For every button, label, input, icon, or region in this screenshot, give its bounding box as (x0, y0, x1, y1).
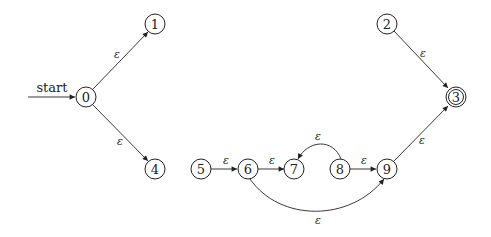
edge-6-9: ε (250, 179, 384, 227)
edge-9-3: ε (394, 106, 448, 161)
svg-text:0: 0 (82, 90, 90, 105)
nfa-diagram: start ε ε ε ε ε ε ε ε ε 0 1 (0, 0, 491, 237)
state-2: 2 (377, 14, 397, 34)
edge-label: ε (269, 154, 275, 167)
state-5: 5 (191, 159, 211, 179)
state-7: 7 (284, 159, 304, 179)
start-label: start (36, 80, 68, 95)
svg-text:2: 2 (383, 17, 391, 32)
state-1: 1 (145, 14, 165, 34)
edge-label: ε (223, 154, 229, 167)
edge-0-4: ε (93, 105, 148, 161)
state-6: 6 (238, 159, 258, 179)
state-8: 8 (330, 159, 350, 179)
edge-8-9: ε (350, 154, 376, 169)
edge-6-7: ε (258, 154, 284, 169)
svg-text:9: 9 (383, 162, 391, 177)
svg-text:1: 1 (151, 17, 159, 32)
edge-8-7: ε (298, 130, 341, 159)
svg-text:7: 7 (290, 162, 298, 177)
svg-text:6: 6 (244, 162, 252, 177)
edge-0-1: ε (93, 32, 148, 89)
svg-text:5: 5 (197, 162, 205, 177)
edge-2-3: ε (394, 31, 448, 88)
edge-label: ε (361, 154, 367, 167)
state-4: 4 (145, 159, 165, 179)
edge-label: ε (315, 130, 321, 143)
edge-label: ε (420, 47, 426, 60)
edge-5-6: ε (211, 154, 237, 169)
edge-label: ε (419, 134, 425, 147)
state-3-accepting: 3 (446, 87, 466, 107)
start-arrow: start (28, 80, 75, 97)
edge-label: ε (315, 214, 321, 227)
edge-label: ε (114, 48, 120, 61)
svg-text:4: 4 (151, 162, 159, 177)
state-0: 0 (76, 87, 96, 107)
edge-label: ε (117, 135, 123, 148)
state-9: 9 (377, 159, 397, 179)
svg-text:8: 8 (336, 162, 344, 177)
svg-text:3: 3 (452, 90, 460, 105)
